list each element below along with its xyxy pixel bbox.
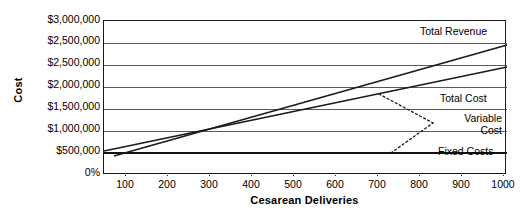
y-tick-label: $2,500,000: [24, 57, 100, 68]
y-tick-label: $1,000,000: [24, 123, 100, 134]
x-tick-label: 1000: [478, 178, 528, 191]
y-tick-label: $2,000,000: [24, 79, 100, 90]
leader-line-lower: [391, 123, 433, 153]
series-label-total-revenue: Total Revenue: [420, 26, 487, 38]
series-label-variable-cost-line1: Variable: [464, 112, 502, 124]
y-tick-label: $2,500,000: [24, 35, 100, 46]
x-axis-tick-labels: 100 200 300 400 500 600 700 800 900 1000: [60, 178, 528, 194]
y-tick-label: 0%: [24, 167, 100, 178]
y-tick-label: $1,500,000: [24, 101, 100, 112]
series-label-variable-cost: Variable Cost: [438, 113, 502, 136]
variable-cost-leader-lines: [379, 94, 433, 153]
y-axis-title-label: Cost: [12, 77, 24, 102]
series-label-variable-cost-line2: Cost: [480, 124, 502, 136]
breakeven-cost-chart: Cost $3,000,000 $2,500,000 $2,500,000 $2…: [0, 0, 528, 220]
plot-area: Total Revenue Total Cost Variable Cost F…: [103, 20, 506, 174]
y-tick-label: $3,000,000: [24, 14, 100, 25]
x-axis-ticks: [125, 175, 503, 176]
series-label-total-cost: Total Cost: [440, 93, 487, 105]
series-label-fixed-costs: Fixed Costs: [438, 146, 493, 158]
y-axis-tick-labels: $3,000,000 $2,500,000 $2,500,000 $2,000,…: [24, 0, 100, 186]
y-tick-label: $500,000: [24, 145, 100, 156]
x-axis-title: Cesarean Deliveries: [103, 194, 506, 206]
